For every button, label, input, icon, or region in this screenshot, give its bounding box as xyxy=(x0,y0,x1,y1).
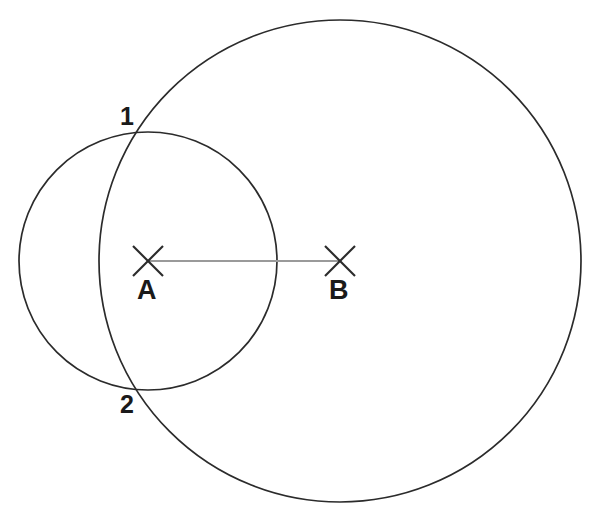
intersection-label-2: 2 xyxy=(120,392,134,417)
center-label-A: A xyxy=(137,277,157,304)
center-label-B: B xyxy=(329,277,349,304)
intersection-label-1: 1 xyxy=(120,104,134,129)
diagram-canvas xyxy=(0,0,600,512)
geometry-diagram: A B 1 2 xyxy=(0,0,600,512)
